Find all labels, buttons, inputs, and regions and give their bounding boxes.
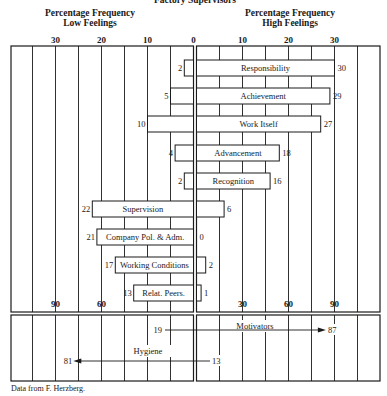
value-low: 5 — [164, 91, 168, 101]
value-high: 0 — [200, 232, 204, 242]
value-low: 22 — [82, 204, 91, 214]
hygiene-high-value: 13 — [212, 356, 221, 366]
hygiene-label: Hygiene — [134, 346, 163, 356]
value-high: 2 — [209, 260, 213, 270]
motivators-label: Motivators — [236, 321, 273, 331]
chart-title: Factory Supervisors — [154, 0, 236, 5]
value-low: 2 — [178, 63, 182, 73]
bottom-tick-right-90: 90 — [330, 299, 340, 309]
value-high: 1 — [204, 288, 208, 298]
bar-low — [184, 60, 193, 76]
bottom-tick-left-60: 60 — [97, 299, 107, 309]
category-label: Relat. Peers. — [142, 288, 185, 298]
tick-right-10: 10 — [238, 35, 248, 45]
value-high: 6 — [227, 204, 231, 214]
value-high: 29 — [333, 91, 342, 101]
bar-high — [197, 285, 202, 301]
bar-low — [148, 116, 194, 132]
value-high: 27 — [324, 119, 333, 129]
motivators-high-value: 87 — [328, 325, 337, 335]
category-label: Work Itself — [239, 119, 277, 129]
bar-high — [197, 257, 206, 273]
header-right: Percentage Frequency — [245, 8, 335, 18]
header-right-sub: High Feelings — [262, 18, 318, 28]
category-label: Responsibility — [241, 63, 291, 73]
category-label: Supervision — [123, 204, 164, 214]
category-label: Achievement — [241, 91, 287, 101]
bar-low — [184, 173, 193, 189]
hygiene-low-value: 81 — [64, 356, 73, 366]
tick-left-30: 30 — [51, 35, 61, 45]
category-label: Working Conditions — [120, 260, 189, 270]
category-label: Advancement — [214, 148, 262, 158]
value-low: 2 — [178, 176, 182, 186]
tick-right-30: 30 — [330, 35, 340, 45]
bar-low — [175, 145, 193, 161]
category-label: Company Pol. & Adm. — [106, 232, 184, 242]
header-left: Percentage Frequency — [45, 8, 135, 18]
tick-left-0: 0 — [191, 35, 196, 45]
value-low: 21 — [86, 232, 95, 242]
tick-left-20: 20 — [97, 35, 107, 45]
bottom-tick-right-30: 30 — [238, 299, 248, 309]
value-low: 13 — [123, 288, 132, 298]
value-low: 17 — [105, 260, 114, 270]
bar-low — [171, 88, 194, 104]
header-left-sub: Low Feelings — [63, 18, 117, 28]
value-high: 30 — [338, 63, 347, 73]
value-low: 10 — [137, 119, 146, 129]
value-low: 4 — [169, 148, 174, 158]
motivators-low-value: 19 — [154, 325, 163, 335]
tick-right-20: 20 — [284, 35, 294, 45]
bar-high — [197, 201, 225, 217]
value-high: 18 — [282, 148, 291, 158]
value-high: 16 — [273, 176, 282, 186]
category-label: Recognition — [213, 176, 255, 186]
bottom-tick-left-90: 90 — [51, 299, 61, 309]
footer-source: Data from F. Herzberg. — [11, 384, 85, 393]
herzberg-chart: Factory SupervisorsPercentage FrequencyL… — [0, 0, 387, 396]
tick-left-10: 10 — [143, 35, 153, 45]
bottom-tick-right-60: 60 — [284, 299, 294, 309]
